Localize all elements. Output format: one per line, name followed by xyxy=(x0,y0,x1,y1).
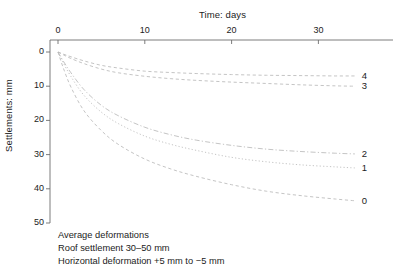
y-tick-label-5: 50 xyxy=(18,217,44,227)
x-axis-title: Time: days xyxy=(0,9,405,20)
settlement-time-chart: Time: days Settlements: mm 0102030010203… xyxy=(0,0,405,276)
curve-2 xyxy=(58,52,355,154)
x-tick-label-2: 20 xyxy=(220,25,244,35)
axis-lines xyxy=(50,40,393,223)
x-axis-title-text: Time: days xyxy=(199,9,246,20)
tick-marks xyxy=(46,40,318,223)
chart-caption: Average deformations Roof settlement 30–… xyxy=(58,229,224,269)
x-tick-label-0: 0 xyxy=(46,25,70,35)
x-tick-label-3: 30 xyxy=(306,25,330,35)
curve-0 xyxy=(58,52,355,201)
y-tick-label-3: 30 xyxy=(18,149,44,159)
caption-line-2: Roof settlement 30–50 mm xyxy=(58,242,224,255)
y-tick-label-1: 10 xyxy=(18,80,44,90)
curve-3 xyxy=(58,52,355,86)
caption-line-1: Average deformations xyxy=(58,229,224,242)
y-tick-label-0: 0 xyxy=(18,46,44,56)
curve-4 xyxy=(58,52,355,76)
settlement-curves xyxy=(58,52,355,201)
y-axis-title: Settlements: mm xyxy=(3,56,14,176)
caption-line-3: Horizontal deformation +5 mm to −5 mm xyxy=(58,255,224,268)
curve-end-label-1: 1 xyxy=(362,162,376,173)
curve-end-label-0: 0 xyxy=(362,195,376,206)
y-tick-label-2: 20 xyxy=(18,114,44,124)
curve-end-label-2: 2 xyxy=(362,148,376,159)
y-tick-label-4: 40 xyxy=(18,183,44,193)
x-tick-label-1: 10 xyxy=(133,25,157,35)
curve-end-label-3: 3 xyxy=(362,80,376,91)
